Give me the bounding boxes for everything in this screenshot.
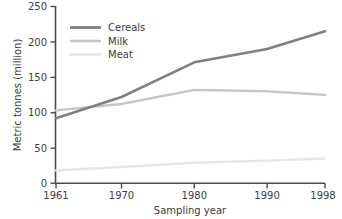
y-axis-title: Metric tonnes (million) [12,39,23,152]
y-tick-label-50: 50 [34,143,47,154]
legend-label-meat: Meat [108,49,133,60]
x-axis-title: Sampling year [154,205,227,216]
x-tick-label-1980: 1980 [182,190,207,201]
y-tick-label-100: 100 [28,107,47,118]
legend: Cereals Milk Meat [70,22,145,60]
series-line-cereals [56,31,325,118]
legend-label-cereals: Cereals [108,22,145,33]
line-chart: 250 200 150 100 50 0 1961 1970 1980 1990… [0,0,342,219]
x-tick-label-1990: 1990 [254,190,279,201]
y-tick-label-0: 0 [41,178,47,189]
x-tick-label-1961: 1961 [43,190,68,201]
legend-label-milk: Milk [108,36,128,47]
y-tick-label-250: 250 [28,1,47,12]
series-line-milk [56,90,325,111]
x-tick-label-1970: 1970 [109,190,134,201]
y-tick-label-150: 150 [28,72,47,83]
y-tick-label-200: 200 [28,37,47,48]
x-tick-label-1998: 1998 [310,190,335,201]
chart-canvas: 250 200 150 100 50 0 1961 1970 1980 1990… [0,0,342,219]
series-line-meat [56,158,325,170]
